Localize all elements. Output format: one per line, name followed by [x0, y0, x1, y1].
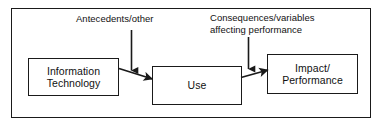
node-impact-performance-line-2: Performance	[282, 74, 343, 87]
node-impact-performance: Impact/ Performance	[267, 54, 358, 94]
node-use-line-1: Use	[188, 79, 207, 92]
diagram-canvas: Antecedents/other Consequences/variables…	[0, 0, 385, 130]
annotation-consequences-line-1: Consequences/variables	[210, 12, 314, 24]
node-information-technology: Information Technology	[28, 58, 119, 96]
annotation-consequences: Consequences/variables affecting perform…	[210, 12, 314, 35]
node-information-technology-line-2: Technology	[47, 77, 101, 90]
annotation-consequences-line-2: affecting performance	[210, 24, 314, 36]
node-impact-performance-line-1: Impact/	[295, 62, 330, 75]
annotation-antecedents-line-1: Antecedents/other	[76, 13, 153, 25]
node-use: Use	[152, 66, 242, 105]
node-information-technology-line-1: Information	[47, 65, 100, 78]
annotation-antecedents: Antecedents/other	[76, 13, 153, 25]
